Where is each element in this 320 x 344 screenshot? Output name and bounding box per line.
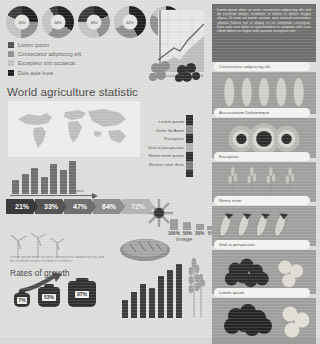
mini-bar [22,174,29,194]
legend-item: Lorem ipsum [8,42,128,48]
percent-step: 72% [122,199,154,214]
donut-value: 25% [18,20,25,25]
bottom-bar [149,288,155,318]
percent-step: 21% [6,199,38,214]
scale-item: 30% [195,224,204,236]
berries-illustration [146,58,204,96]
mini-bar [31,168,38,194]
mid-list-item: Excepteur [128,135,184,144]
card-caption[interactable]: Consectetur adipiscing elit [214,62,310,71]
donut-value: 42% [126,20,133,25]
donut-center: 34% [51,15,66,30]
percent-step: 64% [93,199,125,214]
money-bag-body: 97% [68,281,96,307]
wheat-icon [188,255,206,317]
bottom-bar [131,292,137,318]
vertical-bar [186,115,193,177]
legend-item: Duis aute irure [8,70,128,76]
donut-chart: 25% [6,6,38,38]
mini-bar [50,164,57,194]
page-title: World agriculture statistic [7,86,138,98]
card-caption[interactable]: Sed ut perspiciatis [214,240,310,249]
money-bag-body: 53% [38,287,60,307]
donut-center: 18% [87,15,102,30]
bottom-bar [140,284,146,318]
axis-label: year [76,188,84,193]
legend-swatch [8,51,14,57]
mid-list-item: Sed ut perspiciatis [128,144,184,153]
donut-chart-row: 25%34%18%42%56% [6,6,182,38]
donut-chart: 18% [78,6,110,38]
money-bag-row: 7%53%97% [14,281,96,307]
legend: Lorem ipsumConsectetur adipiscing elitEx… [8,42,128,79]
scale-bar [196,224,204,230]
mid-list-item: Lorem ipsum [128,118,184,127]
money-bag-neck [44,284,54,288]
card-caption[interactable]: Lorem ipsum [214,288,310,297]
legend-swatch [8,60,14,66]
legend-item: Excepteur sint occaecat [8,60,128,66]
legend-item: Consectetur adipiscing elit [8,51,128,57]
bottom-bar [167,270,173,318]
card-caption[interactable]: Nemo enim [214,196,310,205]
mid-label-list: Lorem ipsumDolor Sit AmetExcepteurSed ut… [128,118,184,170]
right-card-column: Consectetur adipiscing elitAccusantium D… [208,0,320,337]
bread-icon [118,234,172,262]
money-bag: 7% [14,293,30,307]
legend-swatch [8,42,14,48]
donut-center: 42% [123,15,138,30]
wheat-illustration [188,255,206,321]
legend-label: Duis aute irure [18,70,53,76]
scale-bar [183,222,191,230]
legend-label: Lorem ipsum [18,42,49,48]
world-map-icon [8,101,140,157]
mid-list-item: Nemo enim ipsam [128,152,184,161]
money-bag-neck [76,278,89,282]
photo-card [212,298,316,344]
rates-subtext: Lorem ipsum dolor sit amet, consectetur … [10,255,106,264]
bottom-bar-chart [122,262,188,318]
scale-item: 50% [183,222,192,236]
mini-bar-chart [12,160,98,194]
scale-label: 30% [195,231,204,236]
bottom-bar [158,276,164,318]
money-bag: 53% [38,287,60,307]
donut-value: 34% [54,20,61,25]
scale-bar [170,219,178,230]
mid-list-item: Beatae vitae dicta [128,161,184,170]
card-caption[interactable]: Excepteur [214,152,310,161]
bottom-bar [122,300,128,318]
berry-cluster-icon [146,58,204,92]
money-bag-value: 7% [17,297,27,304]
bottom-bar [176,264,182,318]
donut-value: 18% [90,20,97,25]
world-map [8,101,140,157]
image-label: image [176,236,192,242]
mini-bar [60,170,67,194]
donut-center: 25% [15,15,30,30]
percent-step-row: 21%33%47%64%72% [6,199,151,214]
money-bag-body: 7% [14,293,30,307]
money-bag: 97% [68,281,96,307]
card-illustration [212,298,316,344]
donut-chart: 34% [42,6,74,38]
mini-bar [69,161,76,194]
donut-chart: 42% [114,6,146,38]
percent-step: 33% [35,199,67,214]
money-bag-neck [18,290,25,294]
mid-list-item: Dolor Sit Amet [128,127,184,136]
card-caption[interactable]: Accusantium Doloremque [214,108,310,117]
legend-label: Consectetur adipiscing elit [18,51,81,57]
legend-swatch [8,70,14,76]
money-bag-value: 97% [75,291,88,298]
legend-label: Excepteur sint occaecat [18,60,75,66]
percent-step: 47% [64,199,96,214]
money-bag-value: 53% [42,294,55,301]
